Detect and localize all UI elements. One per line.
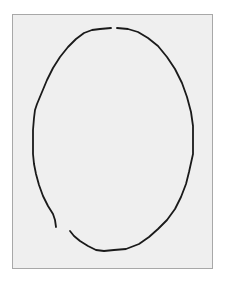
- ellipse-drawing: [0, 0, 227, 285]
- ellipse-stroke-left: [33, 28, 111, 227]
- ellipse-stroke-main: [70, 28, 193, 251]
